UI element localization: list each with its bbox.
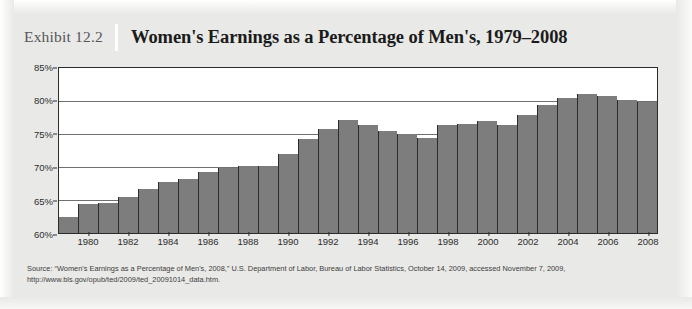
y-axis: 60%65%70%75%80%85%: [24, 67, 56, 234]
bar: [417, 138, 437, 233]
bar: [637, 102, 657, 233]
y-axis-label: 60%: [34, 229, 53, 240]
x-axis-label: 2000: [477, 236, 498, 247]
page-edge-right: [676, 0, 692, 309]
x-axis-label: 1996: [397, 236, 418, 247]
bar: [298, 139, 318, 233]
page-edge-bottom: [0, 297, 692, 309]
x-axis-tick: [648, 232, 649, 236]
bar: [557, 98, 577, 233]
x-axis-label: 2008: [637, 236, 658, 247]
bar: [98, 203, 118, 233]
y-axis-tick: [53, 167, 57, 168]
bar: [78, 204, 98, 233]
x-axis-label: 1992: [317, 236, 338, 247]
bar: [158, 182, 178, 233]
y-axis-tick: [53, 67, 57, 68]
bar: [517, 115, 537, 233]
x-axis-tick: [288, 232, 289, 236]
bar: [617, 100, 637, 233]
bar: [278, 154, 298, 233]
bar: [59, 217, 78, 234]
bar: [238, 166, 258, 233]
y-axis-tick: [53, 100, 57, 101]
bar: [497, 125, 517, 233]
header-divider: [115, 24, 118, 51]
bar: [537, 105, 557, 233]
bar: [198, 172, 218, 233]
x-axis-label: 1980: [77, 236, 98, 247]
x-axis-label: 2004: [557, 236, 578, 247]
y-axis-tick: [53, 134, 57, 135]
bar: [358, 125, 378, 233]
y-axis-label: 70%: [34, 162, 53, 173]
bar: [477, 121, 497, 233]
bar: [258, 166, 278, 233]
x-axis-tick: [408, 232, 409, 236]
exhibit-header: Exhibit 12.2 Women's Earnings as a Perce…: [24, 22, 672, 52]
x-axis-tick: [568, 232, 569, 236]
x-axis-tick: [448, 232, 449, 236]
bar: [577, 94, 597, 233]
y-axis-label: 85%: [34, 62, 53, 73]
bar: [178, 179, 198, 233]
x-axis-tick: [528, 232, 529, 236]
x-axis-label: 1998: [437, 236, 458, 247]
x-axis-label: 1994: [357, 236, 378, 247]
bar: [597, 96, 617, 233]
x-axis: 1980198219841986198819901992199419961998…: [58, 234, 658, 254]
x-axis-label: 2002: [517, 236, 538, 247]
x-axis-tick: [328, 232, 329, 236]
bar: [437, 125, 457, 233]
page-edge-top: [0, 0, 692, 14]
exhibit-number: Exhibit 12.2: [24, 28, 115, 46]
plot-area: [58, 67, 658, 234]
x-axis-tick: [208, 232, 209, 236]
bar: [378, 131, 398, 233]
chart-area: 60%65%70%75%80%85% 198019821984198619881…: [24, 60, 672, 260]
bar-series: [59, 68, 657, 233]
x-axis-tick: [128, 232, 129, 236]
bar: [397, 134, 417, 233]
y-axis-label: 75%: [34, 128, 53, 139]
bar: [318, 129, 338, 233]
y-axis-tick: [53, 234, 57, 235]
page-edge-left: [0, 0, 14, 309]
x-axis-label: 2006: [597, 236, 618, 247]
exhibit-container: Exhibit 12.2 Women's Earnings as a Perce…: [0, 0, 692, 309]
y-axis-label: 65%: [34, 195, 53, 206]
bar: [118, 197, 138, 233]
x-axis-label: 1986: [197, 236, 218, 247]
x-axis-label: 1982: [117, 236, 138, 247]
y-axis-tick: [53, 201, 57, 202]
x-axis-label: 1984: [157, 236, 178, 247]
page-title: Women's Earnings as a Percentage of Men'…: [131, 27, 567, 48]
x-axis-tick: [168, 232, 169, 236]
x-axis-tick: [488, 232, 489, 236]
x-axis-label: 1990: [277, 236, 298, 247]
bar: [338, 120, 358, 233]
x-axis-label: 1988: [237, 236, 258, 247]
x-axis-tick: [88, 232, 89, 236]
x-axis-tick: [608, 232, 609, 236]
x-axis-tick: [368, 232, 369, 236]
bar: [457, 124, 477, 233]
bar: [138, 189, 158, 233]
y-axis-label: 80%: [34, 95, 53, 106]
source-note: Source: “Women's Earnings as a Percentag…: [27, 264, 667, 285]
x-axis-tick: [248, 232, 249, 236]
bar: [218, 168, 238, 233]
